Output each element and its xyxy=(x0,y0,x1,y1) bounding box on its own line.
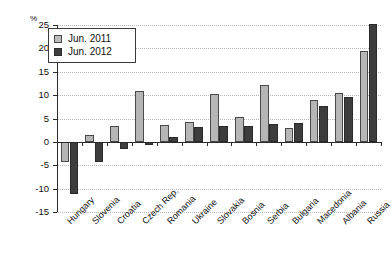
y-tick-label: -15 xyxy=(21,207,49,217)
legend: Jun. 2011 Jun. 2012 xyxy=(48,28,136,63)
gridline xyxy=(57,165,381,166)
y-tick-label: 10 xyxy=(21,90,49,100)
category-label: Bulgaria xyxy=(290,196,320,226)
bar xyxy=(95,142,104,163)
bar xyxy=(219,126,228,142)
bar xyxy=(360,51,369,142)
bar xyxy=(210,94,219,142)
bar xyxy=(194,127,203,142)
x-tickmark xyxy=(281,142,282,146)
x-tickmark xyxy=(132,142,133,146)
x-tickmark xyxy=(182,142,183,146)
x-tickmark xyxy=(381,142,382,146)
y-tick-label: 0 xyxy=(21,137,49,147)
bar xyxy=(120,142,129,149)
gridline xyxy=(57,25,381,26)
bar xyxy=(294,123,303,142)
bar xyxy=(319,106,328,142)
gridline xyxy=(57,95,381,96)
y-tick-label: 15 xyxy=(21,67,49,77)
bar xyxy=(160,125,169,142)
y-tick-label: 20 xyxy=(21,43,49,53)
x-tickmark xyxy=(306,142,307,146)
zero-baseline xyxy=(57,142,381,143)
y-tickmark xyxy=(53,212,57,213)
x-tickmark xyxy=(356,142,357,146)
x-tickmark xyxy=(157,142,158,146)
gridline xyxy=(57,189,381,190)
bar xyxy=(185,122,194,142)
bar xyxy=(61,142,70,162)
y-tick-label: -10 xyxy=(21,184,49,194)
bar xyxy=(269,124,278,142)
bar xyxy=(285,128,294,142)
x-tickmark xyxy=(256,142,257,146)
x-tickmark xyxy=(231,142,232,146)
bar xyxy=(110,126,119,142)
bar xyxy=(310,100,319,142)
bar xyxy=(335,93,344,142)
bar xyxy=(70,142,79,194)
legend-label: Jun. 2012 xyxy=(68,46,112,57)
legend-swatch-icon xyxy=(54,48,62,56)
legend-item: Jun. 2011 xyxy=(54,32,129,45)
bar xyxy=(85,135,94,142)
category-label: Serbia xyxy=(265,201,290,226)
y-tick-label: 25 xyxy=(21,20,49,30)
bar xyxy=(260,85,269,142)
bar xyxy=(344,97,353,141)
gridline xyxy=(57,72,381,73)
gridline xyxy=(57,119,381,120)
bar xyxy=(135,91,144,141)
y-tick-label: 5 xyxy=(21,114,49,124)
y-tick-label: -5 xyxy=(21,160,49,170)
x-tickmark xyxy=(207,142,208,146)
bar-chart: % 2520151050-5-10-15 HungarySloveniaCroa… xyxy=(0,0,391,276)
legend-swatch-icon xyxy=(54,35,62,43)
x-tickmark xyxy=(107,142,108,146)
legend-item: Jun. 2012 xyxy=(54,45,129,58)
x-tickmark xyxy=(331,142,332,146)
legend-label: Jun. 2011 xyxy=(68,33,111,44)
bar xyxy=(235,117,244,142)
x-tickmark xyxy=(82,142,83,146)
bar xyxy=(369,24,378,142)
bar xyxy=(244,126,253,142)
